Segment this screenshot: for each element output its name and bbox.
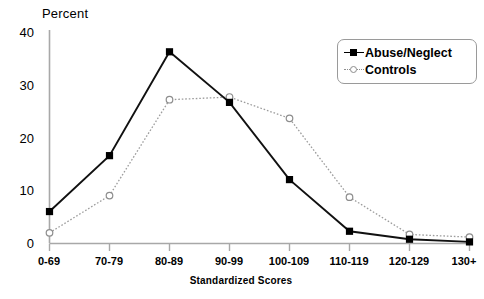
data-point — [286, 176, 293, 183]
legend-label-controls: Controls — [365, 63, 416, 77]
series-controls — [46, 94, 473, 241]
data-point — [46, 208, 53, 215]
y-axis-title: Percent — [42, 6, 88, 21]
chart-figure: Percent 40 30 20 10 0 — [0, 0, 484, 299]
y-tick-label-0: 0 — [6, 236, 34, 251]
data-point — [406, 236, 413, 243]
data-point — [286, 115, 293, 122]
data-point — [466, 238, 473, 245]
y-tick-label-30: 30 — [6, 78, 34, 93]
data-point — [106, 192, 113, 199]
x-tick-label-110-119: 110-119 — [329, 255, 368, 267]
data-point — [166, 96, 173, 103]
x-axis-ticks — [50, 244, 470, 252]
legend-item-abuse-neglect: Abuse/Neglect — [344, 44, 470, 61]
x-axis-title: Standardized Scores — [190, 275, 293, 286]
data-point — [166, 48, 173, 55]
x-tick-label-70-79: 70-79 — [95, 255, 123, 267]
data-point — [46, 230, 53, 237]
data-point — [346, 194, 353, 201]
y-tick-label-20: 20 — [6, 131, 34, 146]
x-tick-label-80-89: 80-89 — [155, 255, 183, 267]
legend-marker-filled-square-icon — [344, 46, 364, 60]
data-point — [106, 152, 113, 159]
x-tick-label-130-plus: 130+ — [452, 255, 477, 267]
x-tick-label-0-69: 0-69 — [38, 255, 60, 267]
series-controls-markers — [46, 94, 473, 241]
chart-legend: Abuse/Neglect Controls — [337, 39, 477, 84]
y-axis-tick-labels: 40 30 20 10 0 — [0, 0, 34, 299]
x-tick-label-100-109: 100-109 — [269, 255, 309, 267]
data-point — [226, 99, 233, 106]
y-tick-label-10: 10 — [6, 183, 34, 198]
x-tick-label-90-99: 90-99 — [215, 255, 243, 267]
legend-marker-open-circle-icon — [344, 63, 364, 77]
legend-label-abuse-neglect: Abuse/Neglect — [365, 46, 452, 60]
x-tick-label-120-129: 120-129 — [389, 255, 429, 267]
series-controls-line — [50, 97, 470, 237]
legend-item-controls: Controls — [344, 61, 470, 78]
data-point — [346, 228, 353, 235]
y-tick-label-40: 40 — [6, 25, 34, 40]
